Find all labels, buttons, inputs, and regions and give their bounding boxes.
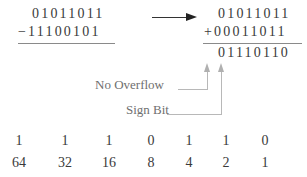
sign-bit-leader-horizontal bbox=[167, 114, 222, 115]
transform-arrow-shaft bbox=[152, 17, 188, 18]
no-overflow-leader-horizontal bbox=[178, 89, 208, 90]
no-overflow-leader-vertical bbox=[207, 70, 208, 90]
weight-cell: 8 bbox=[136, 155, 166, 171]
bit-cell: 1 bbox=[50, 133, 80, 149]
bit-cell: 1 bbox=[174, 133, 204, 149]
left-subtrahend-row: −11100101 bbox=[18, 24, 101, 40]
bit-cell: 0 bbox=[136, 133, 166, 149]
weight-cell: 32 bbox=[50, 155, 80, 171]
plus-operator: + bbox=[204, 24, 214, 39]
left-subtrahend: 11100101 bbox=[28, 24, 101, 39]
weight-cell: 4 bbox=[174, 155, 204, 171]
left-minuend: 01011011 bbox=[32, 6, 105, 22]
right-result: 01110110 bbox=[218, 45, 290, 61]
right-addend2-row: +00011011 bbox=[204, 24, 287, 40]
sign-bit-label: Sign Bit bbox=[126, 102, 169, 118]
right-addend1: 01011011 bbox=[218, 6, 291, 22]
left-underline bbox=[18, 43, 115, 44]
transform-arrow-head-icon bbox=[186, 13, 197, 21]
sign-bit-arrow-icon bbox=[218, 63, 224, 72]
right-underline bbox=[203, 43, 302, 44]
bit-cell: 1 bbox=[211, 133, 241, 149]
bit-cell: 0 bbox=[250, 133, 280, 149]
weight-cell: 1 bbox=[250, 155, 280, 171]
bit-cell: 1 bbox=[4, 133, 34, 149]
right-addend2: 00011011 bbox=[214, 24, 287, 39]
weight-cell: 16 bbox=[94, 155, 124, 171]
minus-operator: − bbox=[18, 24, 28, 39]
sign-bit-leader-vertical bbox=[221, 70, 222, 115]
weight-cell: 2 bbox=[211, 155, 241, 171]
bit-cell: 1 bbox=[94, 133, 124, 149]
no-overflow-label: No Overflow bbox=[95, 77, 164, 93]
weight-cell: 64 bbox=[4, 155, 34, 171]
no-overflow-arrow-icon bbox=[204, 63, 210, 72]
